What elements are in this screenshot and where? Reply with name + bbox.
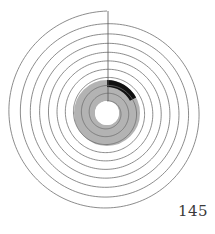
spiral-diagram — [0, 0, 215, 234]
center-hole — [95, 101, 119, 125]
page-number: 145 — [178, 202, 208, 220]
